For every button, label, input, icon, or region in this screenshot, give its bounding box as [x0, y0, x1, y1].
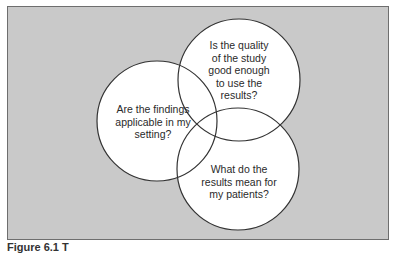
label-line: good enough — [189, 64, 289, 77]
label-line: results? — [189, 89, 289, 102]
label-line: Is the quality — [189, 39, 289, 52]
label-line: to use the — [189, 77, 289, 90]
label-quality: Is the quality of the study good enough … — [189, 39, 289, 102]
label-line: setting? — [100, 128, 206, 141]
label-meaning: What do the results mean for my patients… — [184, 163, 294, 201]
label-line: my patients? — [184, 188, 294, 201]
label-line: Are the findings — [100, 103, 206, 116]
label-line: results mean for — [184, 176, 294, 189]
label-line: applicable in my — [100, 116, 206, 129]
label-line: What do the — [184, 163, 294, 176]
label-applicability: Are the findings applicable in my settin… — [100, 103, 206, 141]
label-line: of the study — [189, 52, 289, 65]
figure-caption: Figure 6.1 T — [7, 241, 69, 253]
